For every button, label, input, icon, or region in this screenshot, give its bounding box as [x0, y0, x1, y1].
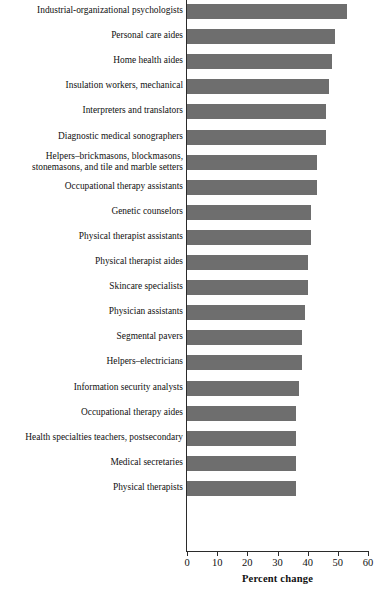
bar-category-label: Personal care aides: [1, 30, 183, 41]
table-row: Information security analysts: [0, 377, 377, 402]
bar-category-label: Helpers–electricians: [1, 356, 183, 367]
table-row: Physical therapists: [0, 477, 377, 502]
x-axis-title: Percent change: [187, 573, 368, 584]
bar: [187, 456, 296, 471]
bar-category-label: Industrial-organizational psychologists: [1, 5, 183, 16]
x-axis-tick-label: 10: [205, 557, 229, 568]
table-row: Diagnostic medical sonographers: [0, 126, 377, 151]
bar: [187, 481, 296, 496]
table-row: Occupational therapy assistants: [0, 176, 377, 201]
x-axis-tick-label: 40: [296, 557, 320, 568]
bar: [187, 431, 296, 446]
table-row: Interpreters and translators: [0, 100, 377, 125]
x-axis-tick: [368, 551, 369, 556]
bar-category-label: Genetic counselors: [1, 206, 183, 217]
bar-category-label: Medical secretaries: [1, 457, 183, 468]
x-axis-tick-label: 60: [356, 557, 377, 568]
x-axis-tick: [247, 551, 248, 556]
bar-category-label: Physician assistants: [1, 306, 183, 317]
bar: [187, 330, 302, 345]
bar: [187, 155, 317, 170]
x-axis-tick: [187, 551, 188, 556]
x-axis-tick: [338, 551, 339, 556]
bar-category-label: Physical therapist aides: [1, 256, 183, 267]
bar: [187, 29, 335, 44]
bar-category-label: Interpreters and translators: [1, 105, 183, 116]
x-axis-tick: [278, 551, 279, 556]
table-row: Helpers–brickmasons, blockmasons, stonem…: [0, 151, 377, 176]
table-row: Genetic counselors: [0, 201, 377, 226]
bar-category-label: Segmental pavers: [1, 331, 183, 342]
bar: [187, 255, 308, 270]
x-axis-tick-label: 30: [266, 557, 290, 568]
bar: [187, 104, 326, 119]
bar: [187, 355, 302, 370]
bar: [187, 406, 296, 421]
table-row: Segmental pavers: [0, 326, 377, 351]
bar-category-label: Occupational therapy assistants: [1, 181, 183, 192]
bar-category-label: Helpers–brickmasons, blockmasons, stonem…: [1, 151, 183, 173]
bar: [187, 280, 308, 295]
bar-category-label: Occupational therapy aides: [1, 407, 183, 418]
horizontal-bar-chart: Industrial-organizational psychologistsP…: [0, 0, 377, 595]
bar-category-label: Information security analysts: [1, 382, 183, 393]
bar: [187, 79, 329, 94]
bar-category-label: Home health aides: [1, 55, 183, 66]
table-row: Helpers–electricians: [0, 351, 377, 376]
bar: [187, 205, 311, 220]
bar-category-label: Physical therapist assistants: [1, 231, 183, 242]
bar-category-label: Health specialties teachers, postseconda…: [1, 432, 183, 443]
x-axis-tick-label: 0: [175, 557, 199, 568]
bar-category-label: Insulation workers, mechanical: [1, 80, 183, 91]
bar: [187, 305, 305, 320]
bar: [187, 180, 317, 195]
bar: [187, 54, 332, 69]
table-row: Industrial-organizational psychologists: [0, 0, 377, 25]
table-row: Physician assistants: [0, 301, 377, 326]
bar: [187, 4, 347, 19]
x-axis-tick-label: 50: [326, 557, 350, 568]
table-row: Skincare specialists: [0, 276, 377, 301]
bar: [187, 381, 299, 396]
bar-category-label: Diagnostic medical sonographers: [1, 131, 183, 142]
bar: [187, 230, 311, 245]
table-row: Occupational therapy aides: [0, 402, 377, 427]
table-row: Physical therapist assistants: [0, 226, 377, 251]
x-axis-tick: [217, 551, 218, 556]
table-row: Physical therapist aides: [0, 251, 377, 276]
bar-category-label: Physical therapists: [1, 482, 183, 493]
table-row: Health specialties teachers, postseconda…: [0, 427, 377, 452]
table-row: Personal care aides: [0, 25, 377, 50]
bar-category-label: Skincare specialists: [1, 281, 183, 292]
x-axis-tick: [308, 551, 309, 556]
table-row: Medical secretaries: [0, 452, 377, 477]
table-row: Insulation workers, mechanical: [0, 75, 377, 100]
table-row: Home health aides: [0, 50, 377, 75]
x-axis-tick-label: 20: [235, 557, 259, 568]
bar: [187, 130, 326, 145]
